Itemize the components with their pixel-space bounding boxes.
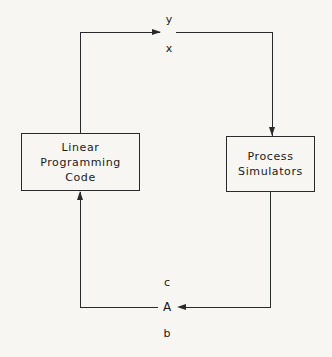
left-bottom-connector [80, 192, 81, 308]
arrow-up-icon [77, 191, 83, 200]
label-b: b [157, 327, 177, 340]
right-down-connector [272, 32, 273, 136]
box-label-line1: Linear Programming [22, 140, 139, 170]
box-label-line2: Code [65, 170, 96, 185]
bottom-connector-right [180, 307, 271, 308]
top-connector-left [80, 32, 160, 33]
process-simulators-box: Process Simulators [226, 136, 315, 192]
box-label-line1: Process [248, 149, 294, 164]
label-y: y [159, 13, 179, 26]
box-label-line2: Simulators [238, 164, 303, 179]
top-connector-right [176, 32, 273, 33]
arrow-right-icon [152, 29, 161, 35]
label-A: A [157, 300, 177, 314]
left-up-connector [80, 32, 81, 133]
label-c: c [157, 276, 177, 289]
arrow-left-icon [177, 304, 186, 310]
arrow-down-icon [269, 127, 275, 136]
bottom-connector-left [80, 307, 158, 308]
right-bottom-connector [270, 192, 271, 308]
linear-programming-code-box: Linear Programming Code [21, 133, 140, 191]
label-x: x [159, 42, 179, 55]
